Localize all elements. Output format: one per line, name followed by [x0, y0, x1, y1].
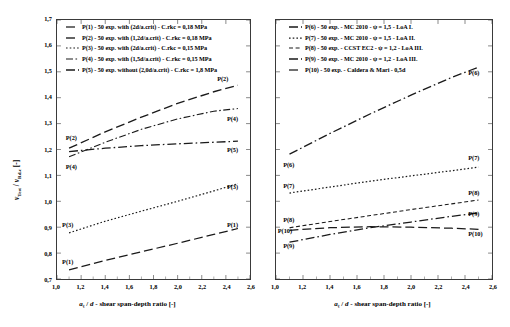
curve-label-P8: P(8)	[468, 189, 479, 196]
x-tick-label: 1,6	[119, 283, 139, 290]
curve-label-P10: P(10)	[278, 227, 292, 234]
x-tick-label: 2,2	[429, 283, 449, 290]
legend-line-swatch-icon	[289, 34, 302, 42]
y-axis-title-left: vTest / vRd,c [-]	[12, 160, 22, 200]
legend-line-swatch-icon	[66, 23, 79, 31]
legend-item[interactable]: P(2) - 50 exp. with (1,2d/a.crit) - C.rk…	[66, 33, 217, 44]
legend-item-label: P(7) - 50 exp. - MC 2010 - ψ = 1,5 - LoA…	[305, 34, 415, 42]
x-axis-title-left: aℓ / d - shear span-depth ratio [-]	[0, 300, 255, 309]
y-tick-label: 1,4	[30, 93, 52, 100]
legend-line-swatch-icon	[289, 44, 302, 52]
y-tick-label: 1,5	[30, 67, 52, 74]
y-tick-label: 0,7	[30, 276, 52, 283]
x-tick-label: 1,0	[46, 283, 66, 290]
series-line-P3	[69, 184, 238, 233]
series-line-P6	[290, 67, 479, 154]
y-tick-label: 1,3	[30, 119, 52, 126]
curve-label-P4: P(4)	[227, 115, 238, 122]
curve-label-P1: P(1)	[227, 221, 238, 228]
legend-item-label: P(1) - 50 exp. with (2d/a.crit) - C.rkc …	[82, 23, 207, 31]
legend-line-swatch-icon	[289, 66, 302, 74]
legend-item[interactable]: P(9) - 50 exp. - MC 2010 - ψ = 1,2 - LoA…	[289, 54, 423, 65]
legend-item[interactable]: P(1) - 50 exp. with (2d/a.crit) - C.rkc …	[66, 22, 217, 33]
legend-right: P(6) - 50 exp. - MC 2010 - ψ = 1,5 - LoA…	[285, 20, 426, 77]
legend-line-swatch-icon	[66, 55, 79, 63]
x-tick-label: 2,0	[168, 283, 188, 290]
curve-label-P6: P(6)	[468, 69, 479, 76]
x-tick-label: 1,2	[70, 283, 90, 290]
x-tick-label: 2,4	[456, 283, 476, 290]
curve-label-P2: P(2)	[66, 134, 77, 141]
y-tick-label: 0,9	[30, 224, 52, 231]
x-tick-label: 2,4	[217, 283, 237, 290]
curve-label-P1: P(1)	[62, 258, 73, 265]
y-tick-label: 0,8	[30, 250, 52, 257]
y-tick-label: 1,7	[30, 15, 52, 22]
legend-item-label: P(9) - 50 exp. - MC 2010 - ψ = 1,2 - LoA…	[305, 55, 417, 63]
curve-label-P7: P(7)	[283, 182, 294, 189]
curve-label-P10: P(10)	[468, 230, 482, 237]
x-tick-label: 1,6	[347, 283, 367, 290]
curve-label-P7: P(7)	[468, 154, 479, 161]
x-axis-title-right: aℓ / d - shear span-depth ratio [-]	[255, 300, 510, 309]
curve-label-P6: P(6)	[283, 161, 294, 168]
legend-line-swatch-icon	[289, 55, 302, 63]
legend-item[interactable]: P(4) - 50 exp. with (1,5d/a.crit) - C.rk…	[66, 54, 217, 65]
series-curves-right	[290, 67, 479, 242]
curve-label-P3: P(3)	[227, 183, 238, 190]
legend-line-swatch-icon	[66, 44, 79, 52]
x-tick-label: 2,0	[401, 283, 421, 290]
x-tick-label: 2,2	[192, 283, 212, 290]
legend-item-label: P(6) - 50 exp. - MC 2010 - ψ = 1,5 - LoA…	[305, 23, 413, 31]
legend-item-label: P(5) - 50 exp. without (2,0d/a.crit) - C…	[82, 66, 217, 74]
y-tick-label: 1,0	[30, 198, 52, 205]
curve-label-P8: P(8)	[283, 216, 294, 223]
y-tick-label: 1,2	[30, 146, 52, 153]
legend-item[interactable]: P(6) - 50 exp. - MC 2010 - ψ = 1,5 - LoA…	[289, 22, 423, 33]
curve-label-P9: P(9)	[468, 210, 479, 217]
figure-root: 0,70,80,91,01,11,21,31,41,51,61,7 1,01,2…	[0, 0, 510, 327]
curve-label-P9: P(9)	[283, 242, 294, 249]
legend-item[interactable]: P(3) - 50 exp. with (2d/a.crit) - C.rkc …	[66, 43, 217, 54]
chart-panel-right: 1,01,21,41,61,82,02,22,42,6 P(6)P(7)P(8)…	[255, 0, 510, 327]
x-tick-label: 1,2	[292, 283, 312, 290]
series-line-P8	[290, 200, 479, 228]
x-tick-label: 1,0	[265, 283, 285, 290]
legend-item-label: P(8) - 50 exp. - CCST EC2 - ψ = 1,2 - Lo…	[305, 44, 423, 52]
x-tick-label: 1,4	[320, 283, 340, 290]
legend-item[interactable]: P(8) - 50 exp. - CCST EC2 - ψ = 1,2 - Lo…	[289, 43, 423, 54]
legend-line-swatch-icon	[66, 34, 79, 42]
x-tick-label: 1,4	[95, 283, 115, 290]
series-line-P2	[69, 85, 238, 148]
curve-label-P3: P(3)	[62, 221, 73, 228]
series-line-P1	[69, 228, 238, 269]
legend-item-label: P(2) - 50 exp. with (1,2d/a.crit) - C.rk…	[82, 34, 212, 42]
x-tick-label: 2,6	[483, 283, 503, 290]
legend-item-label: P(3) - 50 exp. with (2d/a.crit) - C.rkc …	[82, 44, 207, 52]
series-line-P10	[290, 227, 479, 231]
y-tick-label: 1,1	[30, 172, 52, 179]
y-tick-label: 1,6	[30, 41, 52, 48]
series-line-P4	[69, 109, 238, 157]
legend-item-label: P(4) - 50 exp. with (1,5d/a.crit) - C.rk…	[82, 55, 212, 63]
curve-label-P5: P(5)	[227, 146, 238, 153]
legend-item[interactable]: P(7) - 50 exp. - MC 2010 - ψ = 1,5 - LoA…	[289, 33, 423, 44]
x-tick-label: 1,8	[144, 283, 164, 290]
legend-item[interactable]: P(5) - 50 exp. without (2,0d/a.crit) - C…	[66, 64, 217, 75]
curve-label-P4: P(4)	[66, 163, 77, 170]
x-tick-label: 1,8	[374, 283, 394, 290]
series-curves-left	[69, 85, 238, 270]
legend-line-swatch-icon	[289, 23, 302, 31]
legend-item[interactable]: P(10) - 50 exp. - Caldera & Mari - 0,5d	[289, 64, 423, 75]
legend-item-label: P(10) - 50 exp. - Caldera & Mari - 0,5d	[305, 66, 405, 74]
series-line-P7	[290, 167, 479, 193]
chart-panel-left: 0,70,80,91,01,11,21,31,41,51,61,7 1,01,2…	[0, 0, 255, 327]
legend-line-swatch-icon	[66, 66, 79, 74]
legend-left: P(1) - 50 exp. with (2d/a.crit) - C.rkc …	[62, 20, 220, 77]
